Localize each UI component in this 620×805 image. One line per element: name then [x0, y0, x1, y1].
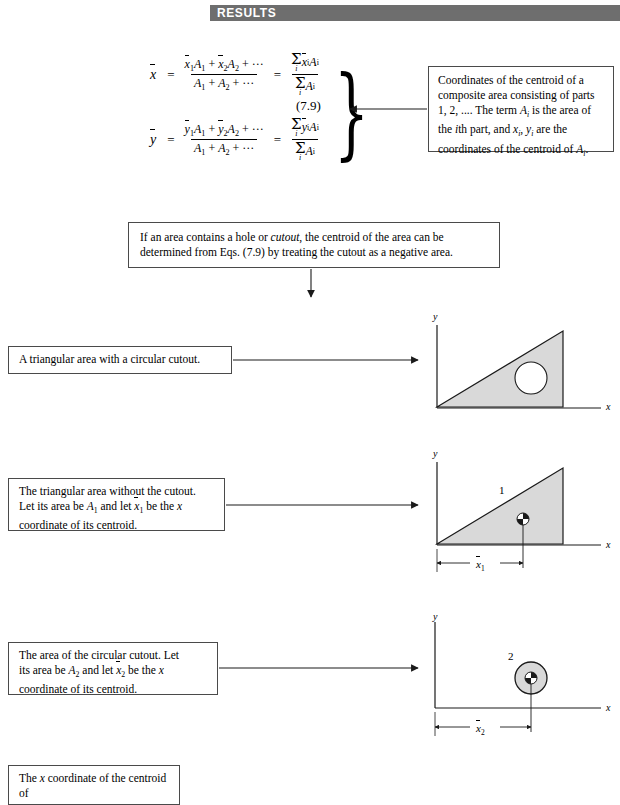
equation-ybar-sum-numerator: ΣiyiAi	[288, 117, 322, 139]
fig2-part-label: 1	[499, 484, 505, 496]
callout-triangle-with-cutout-text: A triangular area with a circular cutout…	[19, 353, 200, 365]
equation-ybar-denominator: A1 + A2 + ···	[191, 139, 257, 157]
results-banner: RESULTS	[210, 5, 620, 21]
callout-triangle-without-cutout-line1: The triangular area without the cutout.	[19, 485, 196, 497]
equation-xbar-fraction: x1A1 + x2A2 + ··· A1 + A2 + ···	[182, 57, 267, 93]
equals-sign-3: =	[160, 132, 181, 148]
circle-shape-2	[515, 662, 547, 694]
equation-number: (7.9)	[296, 98, 321, 114]
equals-sign-2: =	[267, 67, 288, 83]
callout-cutout-rule: If an area contains a hole or cutout, th…	[128, 222, 500, 268]
callout-circular-cutout-line1: The area of the circular cutout. Let	[19, 649, 179, 661]
callout-x-coordinate: The x coordinate of the centroid of	[8, 765, 180, 805]
fig3-x-axis-label: x	[606, 702, 610, 713]
fig1-x-axis-label: x	[606, 401, 610, 412]
equation-xbar: x = x1A1 + x2A2 + ··· A1 + A2 + ··· = Σi…	[150, 52, 350, 97]
fig1-y-axis-label: y	[433, 311, 437, 322]
equation-ybar-sum-denominator: ΣiAi	[292, 139, 318, 162]
figure-triangle-with-cutout	[437, 325, 601, 408]
triangle-shape-2	[437, 468, 563, 544]
figure-triangle-without-cutout	[437, 462, 601, 572]
curly-brace-decoration: }	[334, 54, 369, 172]
fig2-y-axis-label: y	[433, 448, 437, 459]
callout-triangle-with-cutout: A triangular area with a circular cutout…	[8, 346, 232, 374]
callout-triangle-without-cutout: The triangular area without the cutout. …	[8, 478, 225, 531]
callout-cutout-rule-line1: If an area contains a hole or cutout, th…	[140, 231, 444, 243]
callout-coordinates-line2: composite area consisting of parts	[438, 89, 595, 101]
callout-coordinates-line4: the ith part, and xi, yi are the	[438, 123, 567, 135]
callout-x-coordinate-line1: The x coordinate of the centroid of	[19, 772, 166, 799]
callout-circular-cutout-line2: its area be A2 and let x2 be the x	[19, 664, 164, 676]
equation-xbar-lhs: x	[150, 67, 160, 83]
fig3-part-label: 2	[508, 650, 514, 662]
figure-circular-cutout	[435, 622, 601, 736]
equation-ybar-lhs: y	[150, 132, 160, 148]
fig2-x-axis-label: x	[606, 539, 610, 550]
equation-xbar-sum-fraction: ΣixiAi ΣiAi	[288, 52, 322, 97]
callout-circular-cutout-line3: coordinate of its centroid.	[19, 683, 137, 695]
triangle-shape	[437, 331, 563, 407]
centroid-marker-1	[517, 513, 529, 525]
equals-sign: =	[160, 67, 181, 83]
callout-coordinates-line3: 1, 2, .... The term Ai is the area of	[438, 104, 591, 116]
equation-xbar-numerator: x1A1 + x2A2 + ···	[182, 57, 267, 74]
callout-triangle-without-cutout-line3: coordinate of its centroid.	[19, 519, 137, 531]
fig3-y-axis-label: y	[433, 611, 437, 622]
centroid-marker-2	[525, 672, 537, 684]
callout-circular-cutout: The area of the circular cutout. Let its…	[8, 642, 218, 695]
circular-cutout-shape	[515, 362, 547, 394]
callout-triangle-without-cutout-line2: Let its area be A1 and let x1 be the x	[19, 500, 182, 512]
callout-cutout-rule-line2: determined from Eqs. (7.9) by treating t…	[140, 246, 453, 258]
equation-xbar-denominator: A1 + A2 + ···	[191, 74, 257, 92]
callout-coordinates-line5: coordinates of the centroid of Ai.	[438, 143, 588, 155]
callout-coordinates: Coordinates of the centroid of a composi…	[428, 66, 614, 152]
equation-xbar-sum-numerator: ΣixiAi	[288, 52, 322, 74]
equals-sign-4: =	[267, 132, 288, 148]
equation-ybar-sum-fraction: ΣiyiAi ΣiAi	[288, 117, 322, 162]
equation-ybar-fraction: y1A1 + y2A2 + ··· A1 + A2 + ···	[182, 122, 267, 158]
equation-ybar-numerator: y1A1 + y2A2 + ···	[182, 122, 267, 139]
equation-xbar-sum-denominator: ΣiAi	[292, 74, 318, 97]
fig3-dimension-label: x2	[476, 722, 485, 737]
equation-ybar: y = y1A1 + y2A2 + ··· A1 + A2 + ··· = Σi…	[150, 117, 350, 162]
fig2-dimension-label: x1	[476, 558, 485, 573]
results-banner-label: RESULTS	[217, 6, 276, 20]
callout-coordinates-line1: Coordinates of the centroid of a	[438, 74, 584, 86]
